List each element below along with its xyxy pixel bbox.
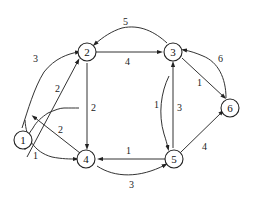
weight-5-6: 4 bbox=[202, 141, 207, 152]
node-6: 6 bbox=[221, 99, 239, 117]
node-2: 2 bbox=[78, 43, 96, 61]
node-4-label: 4 bbox=[83, 153, 89, 165]
weight-1-4: 1 bbox=[33, 150, 38, 161]
edge-3-to-5 bbox=[161, 76, 169, 148]
weight-5-3: 3 bbox=[177, 102, 182, 113]
weight-4-5: 3 bbox=[129, 179, 134, 190]
weight-3-2: 5 bbox=[123, 16, 128, 27]
node-3-label: 3 bbox=[170, 46, 176, 58]
edge-4-to-1 bbox=[34, 117, 80, 153]
edge-1-to-2-outer bbox=[22, 52, 78, 128]
directed-graph-diagram: 3 2 5 4 2 2 1 1 3 1 3 1 6 4 1 2 3 4 5 6 bbox=[0, 0, 253, 200]
weight-3-5: 1 bbox=[154, 99, 159, 110]
edge-4-to-5 bbox=[97, 165, 165, 175]
weight-3-6: 1 bbox=[197, 77, 202, 88]
node-5: 5 bbox=[165, 150, 183, 168]
edge-1-to-4 bbox=[25, 108, 79, 150]
weight-2-3: 4 bbox=[125, 56, 130, 67]
weight-5-4: 1 bbox=[126, 145, 131, 156]
edge-1-to-2-straight bbox=[27, 61, 78, 157]
weight-6-3: 6 bbox=[218, 53, 223, 64]
weight-1-2-outer: 3 bbox=[33, 53, 38, 64]
weight-4-1: 2 bbox=[58, 124, 63, 135]
weight-2-4: 2 bbox=[91, 102, 96, 113]
node-1: 1 bbox=[14, 131, 32, 149]
edge-3-to-2 bbox=[95, 27, 167, 44]
node-4: 4 bbox=[77, 150, 95, 168]
node-6-label: 6 bbox=[227, 102, 233, 114]
node-2-label: 2 bbox=[84, 46, 90, 58]
node-3: 3 bbox=[164, 43, 182, 61]
node-5-label: 5 bbox=[171, 153, 177, 165]
node-1-label: 1 bbox=[20, 134, 26, 146]
weight-1-2-straight: 2 bbox=[55, 83, 60, 94]
